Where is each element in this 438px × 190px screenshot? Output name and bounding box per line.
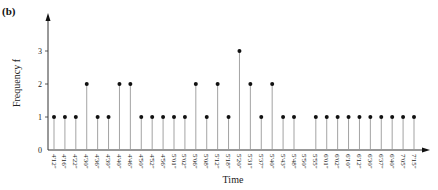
x-tick-label: 6'40" (388, 154, 396, 169)
stem-marker (227, 115, 231, 119)
x-tick-label: 4'30" (82, 154, 90, 169)
stem-marker (259, 115, 263, 119)
stem-marker (379, 115, 383, 119)
x-tick-label: 5'37" (257, 154, 265, 169)
stem (379, 115, 383, 150)
stem (227, 115, 231, 150)
stem (194, 82, 198, 150)
stem (325, 115, 329, 150)
stem-marker (52, 115, 56, 119)
stem (281, 115, 285, 150)
stem (259, 115, 263, 150)
x-tick-labels: 4'12"4'16"4'22"4'30"4'36"4'39"4'40"4'46"… (50, 154, 418, 169)
stem-marker (150, 115, 154, 119)
stem-marker (172, 115, 176, 119)
stem-marker (325, 115, 329, 119)
x-tick-label: 5'06" (191, 154, 199, 169)
stem (401, 115, 405, 150)
x-tick-label: 5'48" (290, 154, 298, 169)
x-tick-label: 6'02" (333, 154, 341, 169)
x-tick-label: 7'05" (399, 154, 407, 169)
stem-marker (128, 82, 132, 86)
stem-marker (74, 115, 78, 119)
stem-marker (107, 115, 111, 119)
stem-marker (85, 82, 89, 86)
stem-marker (139, 115, 143, 119)
stem-marker (401, 115, 405, 119)
x-tick-label: 5'02" (180, 154, 188, 169)
stem (216, 82, 220, 150)
y-axis-label: Frequency f (11, 59, 22, 107)
x-tick-label: 6'01" (322, 154, 330, 169)
y-axis-arrow-icon (46, 13, 51, 21)
stem (336, 115, 340, 150)
stem (412, 115, 416, 150)
stem (128, 82, 132, 150)
stem (161, 115, 165, 150)
x-tick-label: 5'31" (246, 154, 254, 169)
x-tick-label: 5'01" (170, 154, 178, 169)
stem-marker (205, 115, 209, 119)
axes (46, 13, 431, 153)
x-tick-label: 5'43" (279, 154, 287, 169)
stem (63, 115, 67, 150)
stem-marker (357, 115, 361, 119)
x-tick-label: 4'16" (60, 154, 68, 169)
x-tick-label: 5'12" (213, 154, 221, 169)
x-tick-label: 6'12" (355, 154, 363, 169)
stem (74, 115, 78, 150)
x-tick-label: 4'39" (104, 154, 112, 169)
x-tick-label: 5'40" (268, 154, 276, 169)
x-tick-label: 4'40" (115, 154, 123, 169)
stem (314, 115, 318, 150)
x-tick-label: 5'20" (235, 154, 243, 169)
stem (85, 82, 89, 150)
y-tick-label: 2 (38, 80, 42, 89)
stem-marker (314, 115, 318, 119)
x-tick-label: 5'50" (300, 154, 308, 169)
stem (205, 115, 209, 150)
x-tick-label: 4'52" (148, 154, 156, 169)
x-tick-label: 6'30" (366, 154, 374, 169)
stem (117, 82, 121, 150)
stem (347, 115, 351, 150)
stem-marker (194, 82, 198, 86)
stem-marker (390, 115, 394, 119)
stem-marker (368, 115, 372, 119)
stem (368, 115, 372, 150)
x-axis-label: Time (223, 174, 244, 185)
stems (52, 49, 416, 150)
stem (150, 115, 154, 150)
stem (139, 115, 143, 150)
stem-marker (281, 115, 285, 119)
x-tick-label: 4'36" (93, 154, 101, 169)
stem-marker (216, 82, 220, 86)
stem (270, 82, 274, 150)
stem-marker (96, 115, 100, 119)
stem-marker (248, 82, 252, 86)
x-tick-label: 7'15" (410, 154, 418, 169)
stem (292, 115, 296, 150)
stem-marker (63, 115, 67, 119)
stem (237, 49, 241, 150)
stem-marker (412, 115, 416, 119)
stem (183, 115, 187, 150)
stem (172, 115, 176, 150)
x-tick-label: 5'08" (202, 154, 210, 169)
stem-marker (161, 115, 165, 119)
y-tick-label: 1 (38, 113, 42, 122)
x-tick-label: 5'55" (311, 154, 319, 169)
x-tick-label: 4'22" (71, 154, 79, 169)
y-tick-labels: 0123 (38, 47, 48, 155)
stem (107, 115, 111, 150)
stem-marker (292, 115, 296, 119)
stem-chart: 4'12"4'16"4'22"4'30"4'36"4'39"4'40"4'46"… (0, 0, 438, 190)
stem-marker (347, 115, 351, 119)
stem-marker (117, 82, 121, 86)
stem-marker (270, 82, 274, 86)
y-tick-label: 0 (38, 146, 42, 155)
stem (96, 115, 100, 150)
stem (52, 115, 56, 150)
y-tick-label: 3 (38, 47, 42, 56)
x-tick-label: 6'37" (377, 154, 385, 169)
